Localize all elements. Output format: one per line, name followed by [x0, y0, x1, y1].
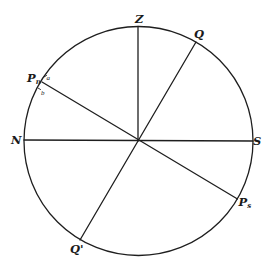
label-mark-b: b [41, 89, 45, 97]
label-pole-south-subscript: s [247, 201, 251, 210]
diagram-canvas: Z Q Q' N S Pn a b Ps [0, 0, 269, 266]
label-q-upper: Q [194, 27, 204, 41]
label-pole-south: Ps [238, 195, 252, 210]
label-pole-north: Pn [26, 71, 41, 86]
celestial-sphere-diagram: Z Q Q' N S Pn a b Ps [0, 0, 269, 266]
label-pole-south-main: P [238, 195, 248, 209]
label-mark-a: a [47, 74, 51, 82]
label-south: S [253, 134, 261, 148]
label-pole-north-subscript: n [36, 77, 41, 86]
label-zenith: Z [134, 12, 144, 26]
label-pole-north-main: P [26, 71, 36, 85]
label-q-lower: Q' [70, 242, 84, 256]
label-north: N [10, 133, 22, 147]
